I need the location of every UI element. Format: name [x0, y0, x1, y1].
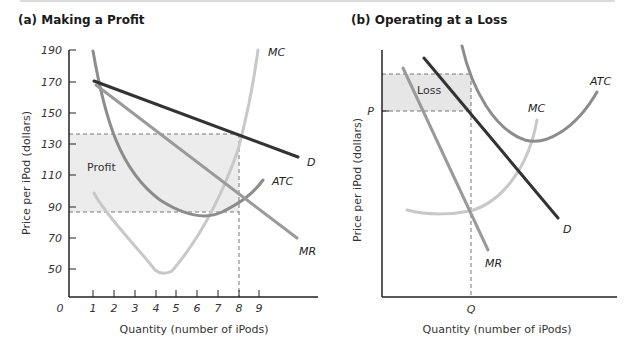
x-tick-9: 9 [256, 302, 263, 315]
panel-a-title: (a) Making a Profit [18, 13, 145, 27]
x-axis-label-a: Quantity (number of iPods) [120, 323, 269, 336]
atc-label-b: ATC [589, 75, 611, 88]
panel-b-title: (b) Operating at a Loss [351, 13, 507, 27]
mc-curve-b [407, 120, 537, 214]
profit-label: Profit [87, 161, 116, 174]
y-tick-70: 70 [48, 232, 62, 245]
y-tick-90: 90 [48, 201, 62, 214]
x-tick-7: 7 [215, 302, 222, 315]
x-tick-5: 5 [173, 302, 180, 315]
x-axis-label-b: Quantity (number of iPods) [423, 323, 572, 336]
q-label: Q [467, 303, 476, 316]
y-tick-110: 110 [41, 169, 62, 182]
p-label: P [367, 105, 374, 118]
y-axis-label-a: Price per iPod (dollars) [20, 111, 33, 235]
d-label-a: D [307, 156, 315, 169]
panel-b-operating-loss: (b) Operating at a Loss Loss P Q Quantit… [351, 13, 617, 336]
x-ticks-a [93, 290, 259, 297]
panel-a-making-profit: (a) Making a Profit Profit 190 17 [18, 13, 318, 336]
chart-canvas: (a) Making a Profit Profit 190 17 [0, 0, 632, 346]
d-label-b: D [563, 223, 571, 236]
x-tick-3: 3 [132, 302, 139, 315]
atc-label-a: ATC [271, 175, 293, 188]
mr-label-b: MR [485, 257, 502, 270]
x-tick-1: 1 [90, 302, 97, 315]
y-tick-190: 190 [41, 44, 62, 57]
y-tick-130: 130 [41, 138, 62, 151]
x-tick-4: 4 [153, 302, 160, 315]
y-axis-label-b: Price per iPod (dollars) [351, 118, 364, 242]
x-tick-0: 0 [57, 302, 64, 315]
loss-label: Loss [417, 84, 441, 97]
y-tick-170: 170 [41, 76, 62, 89]
mr-label-a: MR [299, 245, 316, 258]
demand-line-b [424, 58, 558, 218]
mc-label-a: MC [268, 46, 285, 59]
x-tick-8: 8 [236, 302, 243, 315]
mc-label-b: MC [528, 102, 545, 115]
y-tick-150: 150 [41, 107, 62, 120]
y-tick-50: 50 [48, 263, 62, 276]
x-tick-2: 2 [111, 302, 118, 315]
x-tick-6: 6 [194, 302, 201, 315]
